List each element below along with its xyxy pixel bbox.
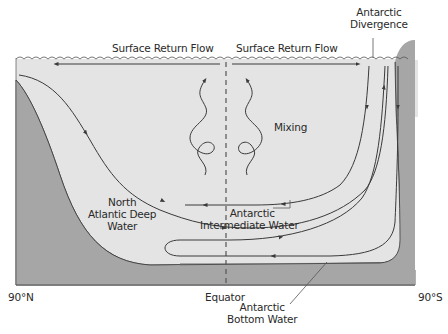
label-antarctic-divergence-line2: Divergence (350, 18, 408, 30)
label-aaiw-line2: Intermediate Water (200, 219, 299, 231)
circulation-diagram (0, 0, 448, 334)
label-antarctic-divergence-line1: Antarctic (350, 6, 408, 18)
axis-label-equator: Equator (205, 291, 245, 303)
label-surface-return-flow-right: Surface Return Flow (236, 42, 338, 54)
label-nadw-line2: Atlantic Deep (88, 208, 156, 220)
label-aaiw-line1: Antarctic (200, 207, 299, 219)
label-aaiw: Antarctic Intermediate Water (200, 207, 299, 231)
label-aabw: Antarctic Bottom Water (227, 301, 298, 325)
axis-label-90n: 90°N (8, 291, 34, 303)
label-surface-return-flow-left: Surface Return Flow (112, 42, 214, 54)
label-nadw-line1: North (88, 196, 156, 208)
label-mixing: Mixing (274, 121, 307, 133)
axis-label-90s: 90°S (418, 291, 442, 303)
label-antarctic-divergence: Antarctic Divergence (350, 6, 408, 30)
sea-surface-waves (16, 57, 408, 59)
label-nadw: North Atlantic Deep Water (88, 196, 156, 232)
label-nadw-line3: Water (88, 220, 156, 232)
label-aabw-line2: Bottom Water (227, 313, 298, 325)
